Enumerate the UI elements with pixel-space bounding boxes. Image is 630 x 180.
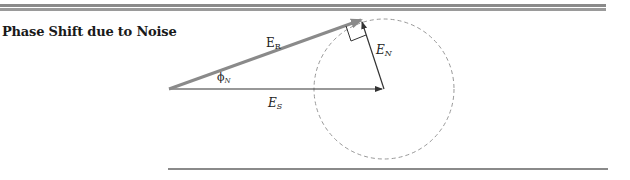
bottom-rule bbox=[168, 168, 608, 170]
phi-label: ϕN bbox=[217, 71, 232, 85]
en-label: EN bbox=[375, 43, 393, 58]
er-vector bbox=[169, 20, 361, 89]
es-label: ES bbox=[267, 96, 283, 111]
right-angle-marker bbox=[346, 26, 366, 41]
phasor-diagram: ER EN ES ϕN bbox=[0, 0, 630, 180]
er-label: ER bbox=[266, 36, 282, 51]
